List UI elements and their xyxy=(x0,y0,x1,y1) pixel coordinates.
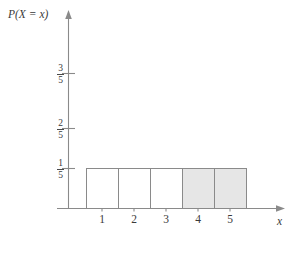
fraction-numerator: 2 xyxy=(57,119,64,130)
fraction-denominator: 5 xyxy=(57,130,64,140)
fraction-three-fifths: 3 5 xyxy=(57,64,64,86)
x-tick-label-3: 3 xyxy=(150,214,182,226)
fraction-denominator: 5 xyxy=(57,170,64,180)
probability-bar-chart-figure: P(X = x) x 3 5 2 5 1 5 1 2 3 4 5 xyxy=(0,0,296,255)
y-tick-label-one-fifth: 1 5 xyxy=(57,159,64,181)
fraction-numerator: 3 xyxy=(57,64,64,75)
bar-3 xyxy=(151,169,183,209)
fraction-denominator: 5 xyxy=(57,75,64,85)
x-tick-label-4: 4 xyxy=(182,214,214,226)
y-axis-title: P(X = x) xyxy=(8,9,48,21)
x-axis-arrowhead xyxy=(276,205,285,212)
bar-5 xyxy=(215,169,247,209)
x-axis-title: x xyxy=(277,216,282,228)
bar-1 xyxy=(87,169,119,209)
y-tick-label-two-fifths: 2 5 xyxy=(57,119,64,141)
fraction-numerator: 1 xyxy=(57,159,64,170)
fraction-two-fifths: 2 5 xyxy=(57,119,64,141)
bar-4 xyxy=(183,169,215,209)
y-axis-arrowhead xyxy=(65,10,72,19)
x-tick-label-1: 1 xyxy=(86,214,118,226)
fraction-one-fifth: 1 5 xyxy=(57,159,64,181)
x-tick-label-5: 5 xyxy=(214,214,246,226)
x-tick-label-2: 2 xyxy=(118,214,150,226)
bar-2 xyxy=(119,169,151,209)
y-tick-label-three-fifths: 3 5 xyxy=(57,64,64,86)
